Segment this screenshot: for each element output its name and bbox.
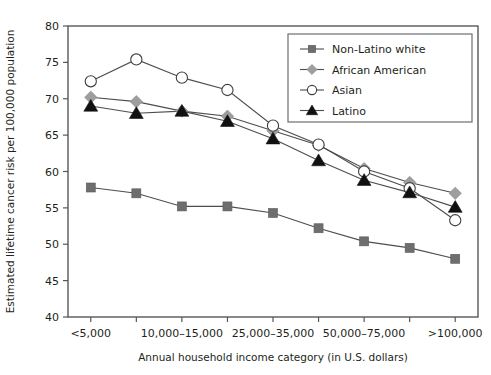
cancer-risk-line-chart: 404550556065707580Estimated lifetime can… [0, 0, 491, 375]
x-axis-tick-label: 10,000–15,000 [141, 327, 223, 340]
y-axis-tick-label: 50 [45, 238, 59, 251]
marker-square [86, 183, 95, 192]
marker-triangle [84, 99, 98, 111]
marker-circle [85, 76, 96, 87]
marker-diamond [449, 187, 461, 199]
x-axis-tick-label: 50,000–75,000 [323, 327, 405, 340]
marker-square [405, 243, 414, 252]
legend-item-label: Asian [332, 84, 362, 97]
marker-circle [222, 84, 233, 95]
marker-square [360, 237, 369, 246]
y-axis-title: Estimated lifetime cancer risk per 100,0… [4, 30, 16, 314]
marker-square [269, 208, 278, 217]
chart-figure: 404550556065707580Estimated lifetime can… [0, 0, 491, 375]
series-line [91, 188, 455, 259]
marker-square [132, 189, 141, 198]
marker-square [451, 254, 460, 263]
legend-item-label: Non-Latino white [332, 43, 426, 56]
y-axis-tick-label: 70 [45, 93, 59, 106]
legend-item-label: African American [332, 64, 426, 77]
marker-triangle [448, 201, 462, 213]
marker-triangle [312, 154, 326, 166]
x-axis-tick-label: <5,000 [70, 327, 111, 340]
y-axis-tick-label: 40 [45, 311, 59, 324]
x-axis-tick-label: 25,000–35,000 [232, 327, 314, 340]
x-axis-tick-label: >100,000 [428, 327, 483, 340]
marker-circle [313, 139, 324, 150]
marker-circle [450, 215, 461, 226]
marker-triangle [266, 132, 280, 144]
y-axis-tick-label: 65 [45, 129, 59, 142]
marker-square [223, 202, 232, 211]
y-axis-tick-label: 60 [45, 166, 59, 179]
marker-circle [267, 120, 278, 131]
y-axis-tick-label: 75 [45, 56, 59, 69]
marker-diamond [130, 95, 142, 107]
series-non-latino-white [91, 188, 455, 259]
legend: Non-Latino whiteAfrican AmericanAsianLat… [288, 34, 472, 122]
marker-square [308, 45, 315, 52]
marker-triangle [357, 174, 371, 186]
marker-circle [307, 85, 316, 94]
x-axis-title: Annual household income category (in U.S… [138, 351, 408, 363]
marker-circle [131, 54, 142, 65]
y-axis-tick-label: 45 [45, 275, 59, 288]
marker-square [314, 224, 323, 233]
marker-square [177, 202, 186, 211]
marker-circle [176, 72, 187, 83]
y-axis-tick-label: 55 [45, 202, 59, 215]
legend-item-label: Latino [332, 105, 366, 118]
y-axis-tick-label: 80 [45, 20, 59, 33]
